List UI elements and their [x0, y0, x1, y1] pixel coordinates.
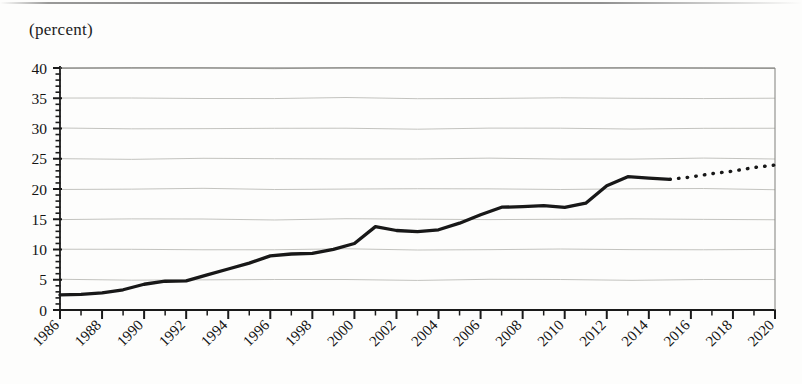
svg-text:1994: 1994	[198, 316, 231, 349]
svg-text:30: 30	[32, 120, 48, 137]
svg-text:1986: 1986	[30, 316, 63, 349]
svg-text:1990: 1990	[114, 317, 147, 350]
svg-text:15: 15	[32, 211, 48, 228]
svg-text:2018: 2018	[703, 317, 736, 350]
y-axis	[53, 66, 62, 311]
x-axis	[59, 310, 776, 319]
y-tick-labels: 0510152025303540	[32, 60, 48, 319]
line-chart-plot: 0510152025303540 19861988199019921994199…	[0, 0, 802, 384]
svg-text:2010: 2010	[534, 317, 567, 350]
chart-figure: (percent) 0510152025303540 1986198819901…	[0, 0, 802, 384]
svg-text:1992: 1992	[156, 317, 189, 350]
svg-text:10: 10	[32, 241, 48, 258]
svg-text:1988: 1988	[72, 317, 105, 350]
gridlines	[60, 68, 775, 281]
svg-text:25: 25	[32, 150, 48, 167]
svg-text:2008: 2008	[492, 317, 525, 350]
svg-text:2012: 2012	[576, 317, 609, 350]
svg-text:0: 0	[39, 302, 47, 319]
svg-text:35: 35	[32, 90, 48, 107]
svg-text:20: 20	[32, 181, 48, 198]
svg-text:2020: 2020	[745, 317, 778, 350]
svg-text:2016: 2016	[660, 316, 693, 349]
svg-text:2000: 2000	[324, 317, 357, 350]
svg-text:1998: 1998	[282, 317, 315, 350]
svg-text:2006: 2006	[450, 316, 483, 349]
data-series	[60, 165, 775, 295]
svg-text:5: 5	[39, 271, 47, 288]
svg-text:1996: 1996	[240, 316, 273, 349]
svg-text:2004: 2004	[408, 316, 441, 349]
x-tick-labels: 1986198819901992199419961998200020022004…	[30, 316, 778, 349]
svg-text:2014: 2014	[618, 316, 651, 349]
svg-text:40: 40	[32, 60, 48, 77]
svg-text:2002: 2002	[366, 317, 399, 350]
